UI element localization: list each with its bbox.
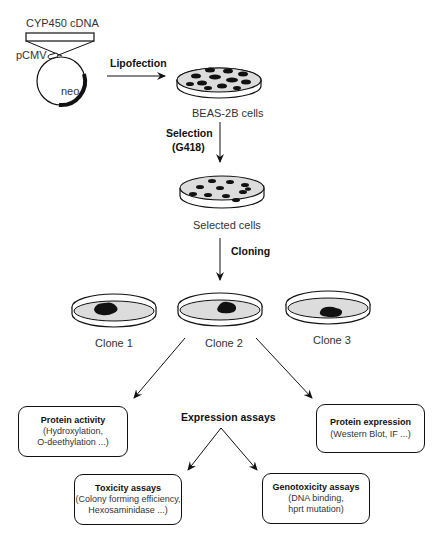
neo-label: neo — [61, 85, 79, 97]
workflow-diagram — [0, 0, 440, 543]
protein-activity-detail-2: O-deethylation ...) — [19, 437, 127, 448]
protein-expression-box: Protein expression (Western Blot, IF ...… — [316, 404, 425, 453]
arrow-to-protein-activity — [134, 338, 185, 398]
arrow-to-protein-expression — [256, 338, 312, 398]
expression-assays-label: Expression assays — [181, 411, 276, 423]
pcmv-label: pCMV — [16, 49, 47, 61]
clone1-dish-icon — [72, 294, 156, 327]
arrow-to-toxicity — [188, 428, 221, 470]
protein-activity-title: Protein activity — [19, 415, 127, 426]
beas-label: BEAS-2B cells — [192, 107, 264, 119]
arrow-to-genotoxicity — [221, 428, 257, 470]
protein-activity-box: Protein activity (Hydroxylation, O-deeth… — [18, 406, 128, 457]
plasmid-icon — [26, 33, 94, 105]
protein-expression-title: Protein expression — [317, 417, 424, 428]
cloning-label: Cloning — [231, 245, 270, 257]
selected-dish-icon — [180, 176, 264, 208]
protein-activity-detail-1: (Hydroxylation, — [19, 426, 127, 437]
toxicity-title: Toxicity assays — [75, 483, 181, 494]
clone1-label: Clone 1 — [95, 337, 133, 349]
clone2-dish-icon — [178, 293, 262, 326]
genotoxicity-detail-1: (DNA binding, — [263, 493, 369, 504]
protein-expression-detail-1: (Western Blot, IF ...) — [317, 429, 424, 440]
clone2-label: Clone 2 — [205, 337, 243, 349]
selection-agent-label: (G418) — [172, 141, 205, 153]
toxicity-detail-2: Hexosaminidase ...) — [75, 505, 181, 516]
cdna-label: CYP450 cDNA — [26, 17, 99, 29]
toxicity-detail-1: (Colony forming efficiency, — [75, 494, 181, 505]
genotoxicity-title: Genotoxicity assays — [263, 482, 369, 493]
selected-label: Selected cells — [193, 219, 261, 231]
genotoxicity-detail-2: hprt mutation) — [263, 504, 369, 515]
beas-dish-icon — [177, 68, 261, 99]
selection-label: Selection — [166, 127, 213, 139]
toxicity-assays-box: Toxicity assays (Colony forming efficien… — [74, 474, 182, 525]
genotoxicity-assays-box: Genotoxicity assays (DNA binding, hprt m… — [262, 473, 370, 524]
clone3-label: Clone 3 — [313, 334, 351, 346]
lipofection-label: Lipofection — [110, 57, 167, 69]
clone3-dish-icon — [286, 291, 370, 324]
